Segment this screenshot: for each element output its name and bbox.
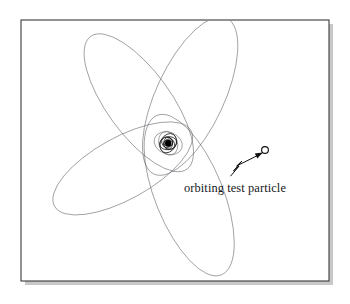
test-particle-marker [262,147,269,154]
figure-canvas: orbiting test particle [0,0,350,304]
orbital-diagram-figure: orbiting test particle [0,0,350,304]
central-mass-dot [165,140,171,146]
orbiting-test-particle-label: orbiting test particle [184,181,286,195]
